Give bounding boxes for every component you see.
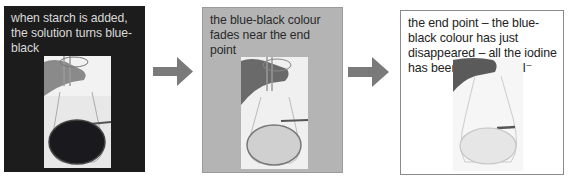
step-caption: the blue-black colour fades near the end… (210, 13, 338, 58)
step-panel-end-point: the end point – the blue-black colour ha… (400, 10, 564, 175)
flask-photo-blue-black (44, 56, 111, 168)
flask-photo-colourless (453, 58, 523, 171)
flask-photo-faded (241, 57, 308, 169)
step-panel-colour-fades: the blue-black colour fades near the end… (202, 7, 343, 173)
arrow-right-icon (348, 57, 389, 87)
step-caption: when starch is added, the solution turns… (11, 11, 141, 56)
step-panel-starch-added: when starch is added, the solution turns… (4, 6, 145, 172)
arrow-right-icon (153, 57, 193, 86)
